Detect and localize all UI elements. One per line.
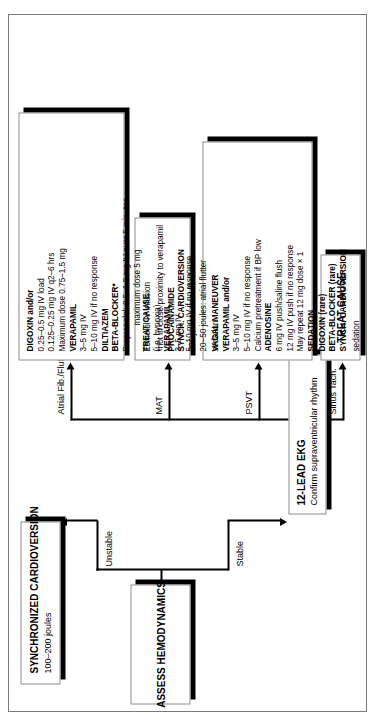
- edge-label-mat: MAT: [154, 396, 163, 414]
- arrow-to-sinus-treat: [338, 362, 346, 369]
- psvt-line: Calcium pretreatment if BP low: [253, 150, 264, 351]
- arrow-to-mat: [164, 362, 172, 369]
- afib-line: BETA-BLOCKER*: [110, 121, 121, 351]
- connector-branch-mat: [168, 368, 170, 420]
- cardioversion-dose: 100–200 joules: [42, 528, 54, 673]
- afib-line: *not in close proximity to verapamil: [155, 121, 166, 351]
- connector-unstable-riser: [66, 519, 97, 521]
- afib-line: Maximum dose 0.75–1.5 mg: [57, 121, 68, 351]
- arrow-to-ekg: [280, 518, 287, 526]
- connector-stable-horizontal: [227, 520, 229, 570]
- node-twelve-lead-ekg[interactable]: 12-LEAD EKG Confirm supraventricular rhy…: [288, 354, 326, 514]
- node-synchronized-cardioversion[interactable]: SYNCHRONIZED CARDIOVERSION 100–200 joule…: [20, 521, 60, 684]
- afib-line: Esmolol IV infusion: [142, 121, 153, 351]
- assess-hemodynamics-label: ASSESS HEMODYNAMICS: [154, 581, 167, 708]
- node-atrial-fib-flutter-treatment[interactable]: DIGOXIN and/or 0.25–0.5 mg IV load 0.125…: [18, 112, 124, 360]
- psvt-line: BETA-BLOCKER (rare): [327, 150, 338, 351]
- psvt-line: DIGOXIN (rare): [317, 150, 328, 351]
- afib-line: VERAPAMIL: [68, 121, 79, 351]
- connector-unstable-horizontal: [96, 520, 98, 570]
- afib-line: 200 joules: atrial fibrillation: [187, 121, 198, 351]
- psvt-line: SYNCH. CARDIOVERSION: [338, 150, 349, 351]
- afib-line: PROCAINAMIDE: [166, 121, 177, 351]
- psvt-line: May repeat 12 mg dose × 1: [295, 150, 306, 351]
- afib-line: Propranolol: 0.5–1.0 mg IV over 5 minute…: [121, 121, 132, 351]
- ekg-title: 12-LEAD EKG: [294, 361, 307, 505]
- connector-branch-psvt: [258, 368, 260, 420]
- afib-line: maximum dose 5 mg: [132, 121, 143, 351]
- psvt-line: 12 mg IV push if no response: [285, 150, 296, 351]
- psvt-line: ADENOSINE: [263, 150, 274, 351]
- edge-label-sinus-tach: Sinus Tach.: [328, 368, 337, 414]
- connector-stable-riser: [227, 519, 280, 521]
- connector-branch-sinus: [342, 368, 344, 420]
- ekg-subtitle: Confirm supraventricular rhythm: [308, 361, 320, 505]
- psvt-line: 3–5 mg IV: [231, 150, 242, 351]
- afib-line: DILTIAZEM: [100, 121, 111, 351]
- psvt-line: 5–10 mg IV if no response: [242, 150, 253, 351]
- afib-line: sedation: [210, 121, 221, 351]
- afib-line: SYNCH. CARDIOVERSION: [176, 121, 187, 351]
- edge-label-unstable: Unstable: [104, 530, 113, 566]
- edge-label-psvt: PSVT: [244, 390, 253, 414]
- psvt-line: VERAPAMIL and/or: [221, 150, 232, 351]
- afib-line: 0.125–0.25 mg IV q2–6 hrs: [46, 121, 57, 351]
- psvt-line: 6 mg IV push/saline flush: [274, 150, 285, 351]
- psvt-line: SEDATION: [306, 150, 317, 351]
- afib-line: 20–50 joules: atrial flutter: [198, 121, 209, 351]
- arrow-to-afib: [66, 362, 74, 369]
- arrow-to-psvt: [254, 362, 262, 369]
- rotation-wrapper: Unstable Stable Atrial Fib./Flutter MAT …: [0, 0, 375, 726]
- psvt-line: sedation: [351, 150, 362, 351]
- afib-line: DIGOXIN and/or: [25, 121, 36, 351]
- afib-line: 0.25–0.5 mg IV load: [36, 121, 47, 351]
- arrow-to-cardioversion: [60, 518, 67, 526]
- edge-label-stable: Stable: [235, 540, 244, 566]
- afib-line: 5–10 mg IV if no response: [89, 121, 100, 351]
- afib-line: 3–5 mg IV: [78, 121, 89, 351]
- cardioversion-title: SYNCHRONIZED CARDIOVERSION: [27, 528, 40, 673]
- flowchart-page: Unstable Stable Atrial Fib./Flutter MAT …: [0, 0, 375, 726]
- node-assess-hemodynamics[interactable]: ASSESS HEMODYNAMICS: [130, 584, 190, 704]
- connector-branch-afib: [70, 368, 72, 420]
- algorithm-flowchart: Unstable Stable Atrial Fib./Flutter MAT …: [0, 0, 375, 726]
